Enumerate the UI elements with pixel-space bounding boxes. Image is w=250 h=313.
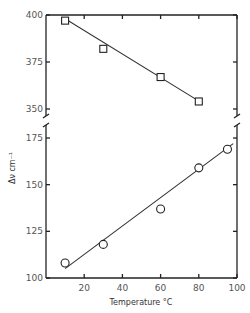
plot-frame (43, 15, 240, 278)
square-marker (100, 45, 107, 52)
x-tick-label: 60 (155, 283, 167, 293)
data-series (61, 17, 233, 269)
y-tick-label: 100 (26, 273, 43, 283)
y-tick-label: 150 (26, 180, 43, 190)
x-tick-label: 20 (78, 283, 90, 293)
fit-line (65, 19, 203, 104)
circle-marker (195, 164, 203, 172)
x-tick-label: 40 (117, 283, 129, 293)
fit-line (65, 144, 233, 269)
y-tick-label: 375 (26, 57, 43, 67)
square-marker (157, 74, 164, 81)
circle-marker (61, 259, 69, 267)
y-axis-label: Δν cm⁻¹ (8, 152, 17, 184)
y-tick-label: 350 (26, 104, 43, 114)
y-tick-label: 125 (26, 226, 43, 236)
x-tick-label: 80 (193, 283, 205, 293)
y-tick-label: 175 (26, 133, 43, 143)
y-tick-label: 400 (26, 10, 43, 20)
x-tick-label: 100 (228, 283, 245, 293)
x-axis-label: Temperature °C (109, 298, 173, 307)
axis-ticks: 20406080100400375350175150125100 (26, 10, 246, 293)
circle-marker (157, 205, 165, 213)
square-marker (62, 17, 69, 24)
circle-marker (99, 240, 107, 248)
circle-marker (223, 145, 231, 153)
square-marker (195, 98, 202, 105)
chart: 20406080100400375350175150125100 Tempera… (0, 0, 250, 313)
